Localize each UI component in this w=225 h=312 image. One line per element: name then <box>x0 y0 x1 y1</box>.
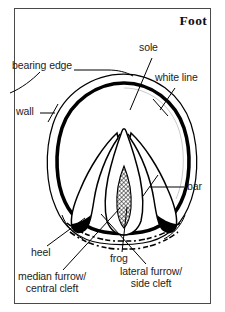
label-lateral-furrow: lateral furrow/ side cleft <box>120 266 182 289</box>
label-sole: sole <box>139 42 158 54</box>
label-wall: wall <box>16 106 34 118</box>
hoof-diagram <box>0 0 225 312</box>
label-white-line: white line <box>155 72 198 84</box>
figure-page: Foot bearing edge sole white line wall b… <box>0 0 225 312</box>
leader-bearing-edge <box>74 70 133 76</box>
figure-title: Foot <box>180 13 207 29</box>
label-median-furrow: median furrow/ central cleft <box>18 271 86 294</box>
label-bar: bar <box>187 181 202 193</box>
label-heel: heel <box>31 247 50 259</box>
leader-bearing-edge-tick <box>10 72 40 93</box>
label-bearing-edge: bearing edge <box>12 60 72 72</box>
label-frog: frog <box>110 253 128 265</box>
